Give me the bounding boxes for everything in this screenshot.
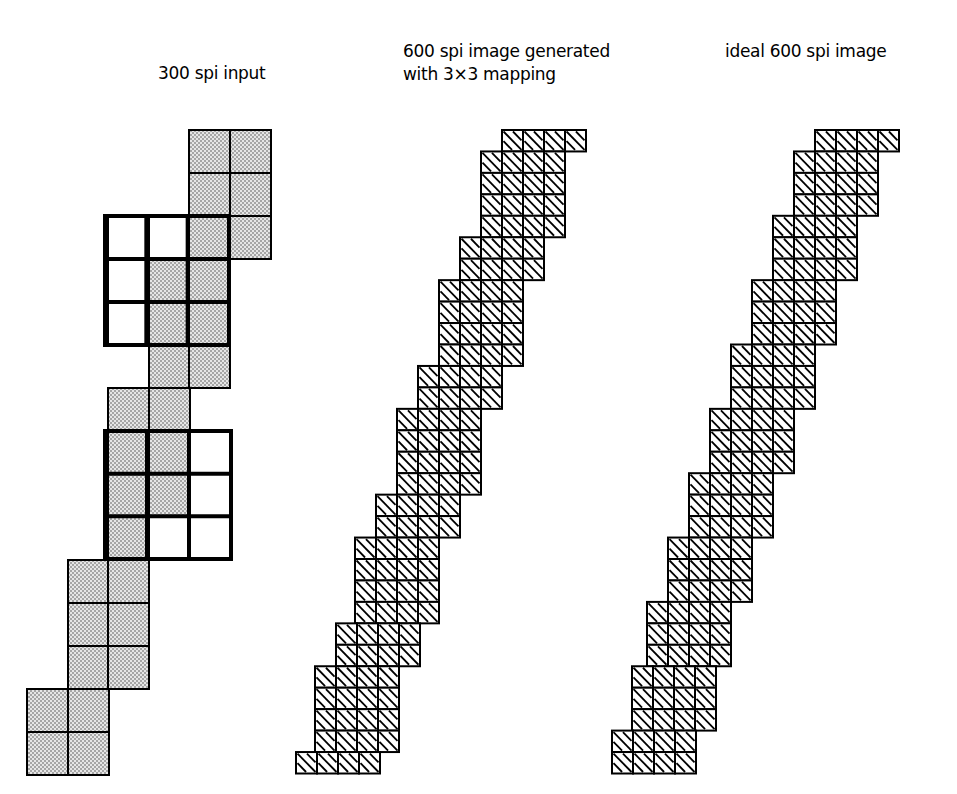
hatched-pixel-cell bbox=[731, 495, 752, 516]
hatched-pixel-cell bbox=[357, 688, 378, 709]
hatched-pixel-cell bbox=[794, 216, 815, 237]
hatched-pixel-cell bbox=[357, 645, 378, 666]
hatched-pixel-cell bbox=[632, 666, 653, 687]
hatched-pixel-cell bbox=[773, 216, 794, 237]
pixel-cell bbox=[149, 259, 190, 302]
hatched-pixel-cell bbox=[731, 559, 752, 580]
hatched-pixel-cell bbox=[794, 323, 815, 344]
hatched-pixel-cell bbox=[773, 430, 794, 451]
hatched-pixel-cell bbox=[710, 538, 731, 559]
hatched-pixel-cell bbox=[481, 151, 502, 172]
hatched-pixel-cell bbox=[689, 516, 710, 537]
hatched-pixel-cell bbox=[481, 302, 502, 323]
hatched-pixel-cell bbox=[355, 580, 376, 601]
hatched-pixel-cell bbox=[632, 688, 653, 709]
hatched-pixel-cell bbox=[752, 495, 773, 516]
hatched-pixel-cell bbox=[315, 688, 336, 709]
hatched-pixel-cell bbox=[633, 752, 654, 773]
hatched-pixel-cell bbox=[502, 345, 523, 366]
hatched-pixel-cell bbox=[481, 323, 502, 344]
hatched-pixel-cell bbox=[794, 151, 815, 172]
hatched-pixel-cell bbox=[460, 323, 481, 344]
hatched-pixel-cell bbox=[731, 366, 752, 387]
hatched-pixel-cell bbox=[439, 430, 460, 451]
hatched-pixel-cell bbox=[376, 580, 397, 601]
hatched-pixel-cell bbox=[523, 259, 544, 280]
hatched-pixel-cell bbox=[439, 387, 460, 408]
hatched-pixel-cell bbox=[336, 666, 357, 687]
hatched-pixel-cell bbox=[502, 130, 523, 151]
hatched-pixel-cell bbox=[378, 645, 399, 666]
pixel-cell bbox=[108, 603, 149, 646]
hatched-pixel-cell bbox=[710, 645, 731, 666]
hatched-pixel-cell bbox=[418, 452, 439, 473]
pixel-cell bbox=[230, 216, 271, 259]
hatched-pixel-cell bbox=[336, 731, 357, 752]
hatched-pixel-cell bbox=[710, 580, 731, 601]
hatched-pixel-cell bbox=[481, 216, 502, 237]
hatched-pixel-cell bbox=[439, 323, 460, 344]
hatched-pixel-cell bbox=[773, 323, 794, 344]
hatched-pixel-cell bbox=[397, 495, 418, 516]
hatched-pixel-cell bbox=[460, 259, 481, 280]
input-300spi-grid bbox=[27, 130, 271, 775]
hatched-pixel-cell bbox=[857, 194, 878, 215]
pixel-cell bbox=[108, 388, 149, 431]
hatched-pixel-cell bbox=[376, 495, 397, 516]
hatched-pixel-cell bbox=[731, 387, 752, 408]
pixel-cell bbox=[68, 732, 109, 775]
hatched-pixel-cell bbox=[815, 194, 836, 215]
pixel-cell bbox=[149, 431, 190, 474]
hatched-pixel-cell bbox=[481, 366, 502, 387]
hatched-pixel-cell bbox=[502, 173, 523, 194]
hatched-pixel-cell bbox=[773, 259, 794, 280]
hatched-pixel-cell bbox=[710, 430, 731, 451]
pixel-cell bbox=[108, 560, 149, 603]
hatched-pixel-cell bbox=[857, 130, 878, 151]
hatched-pixel-cell bbox=[752, 430, 773, 451]
hatched-pixel-cell bbox=[481, 237, 502, 258]
hatched-pixel-cell bbox=[418, 538, 439, 559]
hatched-pixel-cell bbox=[836, 194, 857, 215]
hatched-pixel-cell bbox=[653, 666, 674, 687]
hatched-pixel-cell bbox=[418, 559, 439, 580]
hatched-pixel-cell bbox=[523, 173, 544, 194]
hatched-pixel-cell bbox=[544, 216, 565, 237]
hatched-pixel-cell bbox=[710, 409, 731, 430]
hatched-pixel-cell bbox=[857, 173, 878, 194]
pixel-cell bbox=[108, 517, 149, 560]
hatched-pixel-cell bbox=[376, 559, 397, 580]
hatched-pixel-cell bbox=[668, 580, 689, 601]
hatched-pixel-cell bbox=[502, 237, 523, 258]
hatched-pixel-cell bbox=[418, 409, 439, 430]
hatched-pixel-cell bbox=[773, 387, 794, 408]
hatched-pixel-cell bbox=[481, 387, 502, 408]
hatched-pixel-cell bbox=[502, 259, 523, 280]
hatched-pixel-cell bbox=[752, 409, 773, 430]
hatched-pixel-cell bbox=[544, 173, 565, 194]
pixel-cell bbox=[108, 259, 149, 302]
pixel-cell bbox=[27, 732, 68, 775]
hatched-pixel-cell bbox=[439, 495, 460, 516]
hatched-pixel-cell bbox=[647, 602, 668, 623]
hatched-pixel-cell bbox=[544, 130, 565, 151]
hatched-pixel-cell bbox=[460, 430, 481, 451]
pixel-cell bbox=[108, 431, 149, 474]
hatched-pixel-cell bbox=[654, 752, 675, 773]
hatched-pixel-cell bbox=[731, 516, 752, 537]
hatched-pixel-cell bbox=[710, 473, 731, 494]
hatched-pixel-cell bbox=[523, 151, 544, 172]
hatched-pixel-cell bbox=[773, 280, 794, 301]
hatched-pixel-cell bbox=[376, 538, 397, 559]
pixel-cell bbox=[189, 259, 230, 302]
pixel-cell bbox=[149, 474, 190, 517]
hatched-pixel-cell bbox=[612, 752, 633, 773]
hatched-pixel-cell bbox=[695, 666, 716, 687]
pixel-cell bbox=[149, 345, 190, 388]
hatched-pixel-cell bbox=[668, 602, 689, 623]
hatched-pixel-cell bbox=[836, 237, 857, 258]
hatched-pixel-cell bbox=[439, 452, 460, 473]
hatched-pixel-cell bbox=[878, 130, 899, 151]
hatched-pixel-cell bbox=[710, 452, 731, 473]
hatched-pixel-cell bbox=[460, 366, 481, 387]
